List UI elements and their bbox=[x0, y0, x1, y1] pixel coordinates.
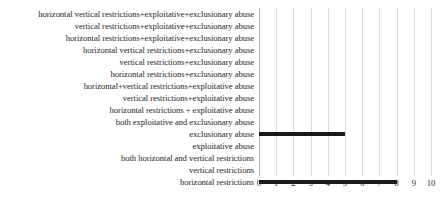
x-tick-label: 0 bbox=[250, 178, 268, 188]
x-tick-label: 8 bbox=[388, 178, 406, 188]
bar-row bbox=[259, 128, 431, 140]
bar-row bbox=[259, 116, 431, 128]
bar-row bbox=[259, 20, 431, 32]
bar-row bbox=[259, 56, 431, 68]
category-label: horizontal restrictions+exploitative+exc… bbox=[0, 32, 257, 44]
x-tick-label: 7 bbox=[370, 178, 388, 188]
bar-row bbox=[259, 44, 431, 56]
plot-area bbox=[259, 8, 431, 176]
bar bbox=[259, 132, 345, 136]
bar-row bbox=[259, 140, 431, 152]
x-tick-label: 5 bbox=[336, 178, 354, 188]
x-axis-tick-labels: 012345678910 bbox=[259, 176, 431, 198]
category-label: horizontal vertical restrictions+exclusi… bbox=[0, 44, 257, 56]
category-label: horizontal restrictions + exploitative a… bbox=[0, 104, 257, 116]
category-axis-labels: horizontal vertical restrictions+exploit… bbox=[0, 8, 257, 176]
horizontal-bar-chart: horizontal vertical restrictions+exploit… bbox=[0, 0, 446, 198]
bar-row bbox=[259, 152, 431, 164]
category-label: horizontal vertical restrictions+exploit… bbox=[0, 8, 257, 20]
x-tick-label: 1 bbox=[267, 178, 285, 188]
bar-row bbox=[259, 8, 431, 20]
category-label: horizontal restrictions+exclusionary abu… bbox=[0, 68, 257, 80]
bars-layer bbox=[259, 8, 431, 176]
category-label: both horizontal and vertical restriction… bbox=[0, 152, 257, 164]
bar-row bbox=[259, 68, 431, 80]
bar-row bbox=[259, 92, 431, 104]
category-label: vertical restrictions+exploitative+exclu… bbox=[0, 20, 257, 32]
category-label: vertical restrictions+exploitative abuse bbox=[0, 92, 257, 104]
x-tick-label: 9 bbox=[405, 178, 423, 188]
category-label: both exploitative and exclusionary abuse bbox=[0, 116, 257, 128]
x-tick-label: 2 bbox=[284, 178, 302, 188]
category-label: horizontal restrictions bbox=[0, 176, 257, 188]
bar-row bbox=[259, 164, 431, 176]
category-label: exclusionary abuse bbox=[0, 128, 257, 140]
x-tick-label: 3 bbox=[302, 178, 320, 188]
bar-row bbox=[259, 80, 431, 92]
gridline bbox=[431, 8, 432, 176]
category-label: horizontal+vertical restrictions+exploit… bbox=[0, 80, 257, 92]
x-tick-label: 10 bbox=[422, 178, 440, 188]
category-label: vertical restrictions bbox=[0, 164, 257, 176]
x-tick-label: 4 bbox=[319, 178, 337, 188]
category-label: vertical restrictions+exclusionary abuse bbox=[0, 56, 257, 68]
bar-row bbox=[259, 104, 431, 116]
category-label: exploitative abuse bbox=[0, 140, 257, 152]
bar-row bbox=[259, 32, 431, 44]
x-tick-label: 6 bbox=[353, 178, 371, 188]
